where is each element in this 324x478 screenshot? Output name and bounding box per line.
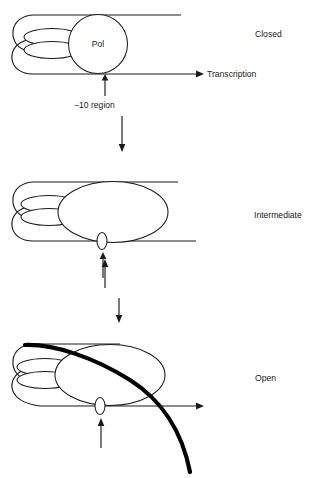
panel-closed: Pol Transcription −10 region Closed bbox=[12, 15, 282, 111]
dna-melting-bubble-intermediate bbox=[97, 233, 107, 250]
bubble-pointer-arrowhead-intermediate bbox=[100, 252, 107, 259]
stage-label-open: Open bbox=[255, 373, 276, 383]
bubble-pointer-arrowhead-open bbox=[98, 418, 105, 426]
polymerase-core-intermediate bbox=[58, 182, 168, 243]
polymerase-label: Pol bbox=[92, 39, 105, 49]
transition-arrow-1-head bbox=[119, 144, 126, 152]
minus-ten-pointer-arrowhead bbox=[102, 74, 109, 81]
dna-melting-bubble-open bbox=[95, 398, 105, 415]
transition-arrow-closed-to-intermediate bbox=[119, 116, 126, 152]
diagram-figure: Pol Transcription −10 region Closed bbox=[0, 0, 324, 478]
panel-open: Open bbox=[12, 344, 276, 472]
panel-intermediate: Intermediate bbox=[12, 182, 302, 279]
transition-arrow-3-head bbox=[116, 315, 123, 323]
minus-ten-region-label: −10 region bbox=[74, 100, 115, 110]
stage-label-closed: Closed bbox=[255, 29, 282, 39]
transcription-diagram-svg: Pol Transcription −10 region Closed bbox=[0, 0, 324, 478]
transcription-arrowhead bbox=[196, 70, 204, 77]
stage-label-intermediate: Intermediate bbox=[254, 210, 302, 220]
transition-arrow-intermediate-to-open bbox=[116, 298, 123, 323]
transcription-direction-label: Transcription bbox=[207, 69, 257, 79]
transcription-arrowhead-open bbox=[196, 402, 204, 409]
